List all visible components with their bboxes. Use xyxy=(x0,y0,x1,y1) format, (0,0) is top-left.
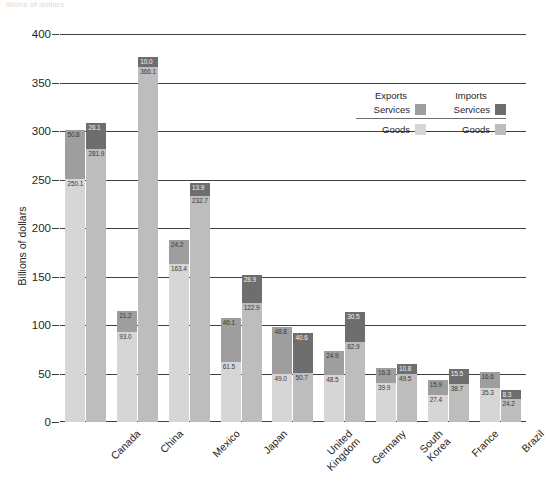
bar-group: 21.293.010.0366.1China xyxy=(112,34,164,422)
exports-bar-goods-segment: 27.4 xyxy=(428,395,448,422)
segment-value-label: 281.9 xyxy=(88,150,104,157)
imports-bar[interactable]: 10.0366.1 xyxy=(138,57,158,422)
segment-value-label: 232.7 xyxy=(192,197,208,204)
exports-bar[interactable]: 21.293.0 xyxy=(117,311,137,422)
bar-group: 48.849.040.650.7United Kingdom xyxy=(267,34,319,422)
segment-value-label: 10.8 xyxy=(399,365,411,372)
segment-value-label: 82.9 xyxy=(347,343,359,350)
y-tick-mark xyxy=(52,131,59,132)
exports-bar-services-segment: 24.2 xyxy=(169,240,189,263)
exports-bar-goods-segment: 250.1 xyxy=(65,179,85,422)
imports-bar-services-segment: 13.9 xyxy=(190,183,210,196)
x-axis-category-label: South Korea xyxy=(417,428,452,463)
segment-value-label: 21.2 xyxy=(119,312,131,319)
exports-bar-goods-segment: 163.4 xyxy=(169,264,189,422)
legend-swatch-exports-goods xyxy=(415,124,426,135)
imports-bar-services-segment: 26.1 xyxy=(86,123,106,148)
x-axis-category-label: Japan xyxy=(262,428,290,456)
imports-bar[interactable]: 15.538.7 xyxy=(449,369,469,422)
exports-bar-services-segment: 16.6 xyxy=(480,372,500,388)
y-tick-label: 350 xyxy=(32,77,51,89)
legend-label-exports-services: Services xyxy=(374,104,410,115)
imports-bar[interactable]: 28.9122.9 xyxy=(242,275,262,422)
y-tick-mark xyxy=(52,228,59,229)
y-tick-mark xyxy=(52,277,59,278)
imports-bar-services-segment: 40.6 xyxy=(293,333,313,372)
imports-bar-goods-segment: 82.9 xyxy=(345,342,365,422)
segment-value-label: 35.3 xyxy=(482,389,494,396)
segment-value-label: 24.2 xyxy=(171,241,183,248)
imports-bar-goods-segment: 38.7 xyxy=(449,384,469,422)
exports-bar[interactable]: 15.927.4 xyxy=(428,380,448,422)
exports-bar[interactable]: 46.161.5 xyxy=(221,318,241,422)
exports-bar-goods-segment: 39.9 xyxy=(376,383,396,422)
exports-bar-goods-segment: 49.0 xyxy=(272,374,292,422)
exports-bar-services-segment: 50.8 xyxy=(65,130,85,179)
y-tick-mark xyxy=(52,374,59,375)
segment-value-label: 93.0 xyxy=(119,333,131,340)
imports-bar[interactable]: 30.582.9 xyxy=(345,312,365,422)
segment-value-label: 16.6 xyxy=(482,373,494,380)
imports-bar[interactable]: 8.324.2 xyxy=(501,390,521,422)
bar-group: 24.2163.413.9232.7Mexico xyxy=(164,34,216,422)
exports-bar[interactable]: 24.2163.4 xyxy=(169,240,189,422)
exports-bar[interactable]: 16.635.3 xyxy=(480,372,500,422)
y-tick-label: 200 xyxy=(32,222,51,234)
imports-bar[interactable]: 40.650.7 xyxy=(293,333,313,422)
chart-top-caption: illions of dollars xyxy=(6,0,64,9)
legend-label-imports-services: Services xyxy=(454,104,490,115)
exports-bar[interactable]: 16.339.9 xyxy=(376,368,396,423)
y-tick-mark xyxy=(52,325,59,326)
x-axis-category-label: Germany xyxy=(369,428,407,466)
imports-bar-goods-segment: 281.9 xyxy=(86,149,106,422)
exports-bar[interactable]: 48.849.0 xyxy=(272,327,292,422)
segment-value-label: 15.9 xyxy=(430,381,442,388)
segment-value-label: 48.5 xyxy=(326,376,338,383)
segment-value-label: 39.9 xyxy=(378,384,390,391)
imports-bar[interactable]: 13.9232.7 xyxy=(190,183,210,422)
segment-value-label: 27.4 xyxy=(430,396,442,403)
imports-bar-goods-segment: 49.5 xyxy=(397,374,417,422)
segment-value-label: 163.4 xyxy=(171,265,187,272)
imports-bar[interactable]: 26.1281.9 xyxy=(86,123,106,422)
imports-bar-goods-segment: 366.1 xyxy=(138,67,158,422)
exports-bar-goods-segment: 35.3 xyxy=(480,388,500,422)
y-tick-label: 250 xyxy=(32,174,51,186)
y-tick-mark xyxy=(52,34,59,35)
imports-bar-services-segment: 10.0 xyxy=(138,57,158,67)
imports-bar[interactable]: 10.849.5 xyxy=(397,364,417,422)
segment-value-label: 49.0 xyxy=(274,375,286,382)
imports-bar-goods-segment: 122.9 xyxy=(242,303,262,422)
legend-divider xyxy=(356,118,506,119)
exports-bar-services-segment: 46.1 xyxy=(221,318,241,363)
exports-bar[interactable]: 50.8250.1 xyxy=(65,130,85,422)
exports-bar-services-segment: 15.9 xyxy=(428,380,448,395)
y-tick-mark xyxy=(52,180,59,181)
bar-group: 46.161.528.9122.9Japan xyxy=(215,34,267,422)
segment-value-label: 48.8 xyxy=(274,328,286,335)
y-tick-label: 400 xyxy=(32,28,51,40)
x-axis-category-label: France xyxy=(470,428,501,459)
segment-value-label: 30.5 xyxy=(347,313,359,320)
segment-value-label: 366.1 xyxy=(140,68,156,75)
segment-value-label: 61.5 xyxy=(223,363,235,370)
exports-bar-goods-segment: 48.5 xyxy=(324,375,344,422)
legend-swatch-exports-services xyxy=(415,104,426,115)
exports-bar-services-segment: 16.3 xyxy=(376,368,396,384)
segment-value-label: 122.9 xyxy=(244,304,260,311)
imports-bar-services-segment: 10.8 xyxy=(397,364,417,374)
x-axis-category-label: Mexico xyxy=(211,428,242,459)
legend-exports-title: Exports xyxy=(356,90,426,101)
exports-bar[interactable]: 24.948.5 xyxy=(324,351,344,422)
y-tick-mark xyxy=(52,422,59,423)
segment-value-label: 49.5 xyxy=(399,375,411,382)
imports-bar-services-segment: 30.5 xyxy=(345,312,365,342)
x-axis-category-label: Canada xyxy=(109,428,143,462)
segment-value-label: 24.9 xyxy=(326,352,338,359)
x-axis-category-label: Brazil xyxy=(520,428,546,454)
imports-bar-goods-segment: 50.7 xyxy=(293,373,313,422)
segment-value-label: 15.5 xyxy=(451,370,463,377)
y-tick-label: 50 xyxy=(38,368,51,380)
segment-value-label: 28.9 xyxy=(244,276,256,283)
